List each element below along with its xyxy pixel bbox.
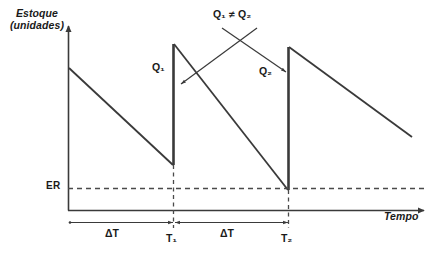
annotation-delta-t-1: ΔT	[105, 228, 119, 240]
reference-lines-group	[68, 165, 424, 228]
annotation-delta-t-2: ΔT	[220, 228, 234, 240]
depletion-segment-0	[69, 68, 173, 165]
callout-arrow-to-q1	[181, 28, 257, 84]
depletion-segment-2	[289, 47, 412, 137]
y-tick-label-er: ER	[46, 180, 61, 191]
axis-group	[68, 26, 424, 211]
annotation-q1-not-equal-q2: Q₁ ≠ Q₂	[213, 9, 251, 21]
chart-canvas: Estoque (unidades) Tempo ER T₁ T₂ Q₁ Q₂ …	[0, 0, 440, 264]
inventory-sawtooth-series	[69, 44, 412, 190]
y-axis-title-line1: Estoque	[6, 8, 68, 20]
annotation-q2: Q₂	[259, 66, 272, 78]
chart-plot-svg	[0, 0, 440, 264]
y-axis-title: Estoque (unidades)	[6, 8, 68, 32]
y-axis-title-line2: (unidades)	[6, 20, 68, 32]
callout-arrow-to-q2	[222, 28, 286, 72]
x-tick-label-t2: T₂	[281, 233, 292, 245]
x-tick-label-t1: T₁	[166, 233, 177, 245]
annotation-q1: Q₁	[152, 62, 165, 74]
x-axis-title: Tempo	[384, 211, 419, 223]
